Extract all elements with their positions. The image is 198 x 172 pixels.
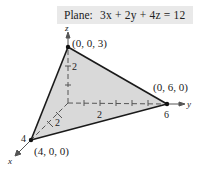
vertex-dot-z: [66, 45, 70, 49]
y-tick-6: 6: [164, 109, 169, 120]
y-tick-2: 2: [97, 109, 102, 120]
vertex-label-y: (0, 6, 0): [153, 81, 188, 94]
z-axis-label: z: [64, 23, 69, 33]
vertex-dot-x: [29, 138, 33, 142]
z-tick-2: 2: [72, 61, 77, 72]
y-axis-label: y: [186, 99, 191, 109]
y-arrow-icon: [179, 102, 185, 106]
plane-diagram: z y x 2 2 6 2 4 (0, 0, 3) (0, 6, 0) (4, …: [0, 0, 198, 172]
vertex-label-z: (0, 0, 3): [72, 37, 107, 50]
x-axis-label: x: [7, 156, 12, 166]
x-tick-2: 2: [55, 117, 60, 128]
vertex-label-x: (4, 0, 0): [34, 145, 69, 158]
x-tick-4: 4: [21, 133, 26, 144]
vertex-dot-y: [165, 102, 169, 106]
